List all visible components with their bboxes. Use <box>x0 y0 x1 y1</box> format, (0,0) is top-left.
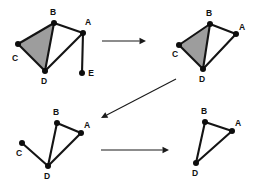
panel-2-label-A: A <box>239 22 245 32</box>
panel-1-edge-B-A <box>54 23 83 33</box>
panel-3-edges <box>22 123 81 166</box>
panel-1-node-C <box>15 41 21 47</box>
panel-1-node-B <box>51 20 57 26</box>
arrow-2-shaft <box>107 79 176 115</box>
panel-1-label-A: A <box>85 17 91 27</box>
panel-2-node-C <box>176 42 182 48</box>
panel-1-label-D: D <box>41 76 47 86</box>
arrow-3-head-icon <box>163 147 170 153</box>
panel-4-node-D <box>193 160 199 166</box>
panel-4-edges <box>196 122 232 163</box>
panel-4-label-B: B <box>201 106 207 116</box>
graph-transformation-diagram: A B C D E A <box>0 0 261 188</box>
panel-2-edge-B-A <box>210 24 236 34</box>
panel-2-node-D <box>200 66 206 72</box>
panel-4-edge-B-A <box>205 122 232 131</box>
panel-1-edge-A-E <box>82 33 83 73</box>
diagram-canvas: A B C D E A <box>0 0 261 188</box>
panel-3-node-D <box>45 163 51 169</box>
panel-3-label-C: C <box>16 148 22 158</box>
panel-3-edge-B-A <box>57 123 81 133</box>
panel-1-node-A <box>80 30 86 36</box>
panel-3-label-A: A <box>84 120 90 130</box>
panel-4-labels: A B D <box>192 106 241 178</box>
panel-1-label-E: E <box>88 68 94 78</box>
panel-4-node-A <box>229 128 235 134</box>
transition-arrows <box>101 38 176 153</box>
panel-3-node-C <box>19 140 25 146</box>
panel-1-label-B: B <box>50 7 56 17</box>
panel-2-label-C: C <box>172 49 178 59</box>
arrow-panel2-to-panel3 <box>101 79 176 118</box>
panel-2-shaded-face-BCD <box>179 24 210 69</box>
panel-4-node-B <box>202 119 208 125</box>
arrow-1-head-icon <box>140 38 147 44</box>
panel-3-node-A <box>78 130 84 136</box>
panel-1: A B C D E <box>12 7 94 86</box>
arrow-panel1-to-panel2 <box>102 38 146 44</box>
panel-2-label-B: B <box>206 8 212 18</box>
panel-1-node-D <box>42 68 48 74</box>
panel-1-label-C: C <box>12 53 18 63</box>
panel-4-label-D: D <box>192 168 198 178</box>
arrow-panel3-to-panel4 <box>101 147 169 153</box>
panel-4-label-A: A <box>235 118 241 128</box>
panel-4: A B D <box>192 106 241 178</box>
panel-3-label-D: D <box>44 171 50 181</box>
panel-3-label-B: B <box>53 107 59 117</box>
panel-2-label-D: D <box>199 74 205 84</box>
panel-1-node-E <box>79 70 85 76</box>
panel-3-node-B <box>54 120 60 126</box>
panel-2-node-B <box>207 21 213 27</box>
panel-3: A B C D <box>16 107 90 181</box>
panel-2: A B C D <box>172 8 245 84</box>
panel-3-edge-C-D <box>22 143 48 166</box>
